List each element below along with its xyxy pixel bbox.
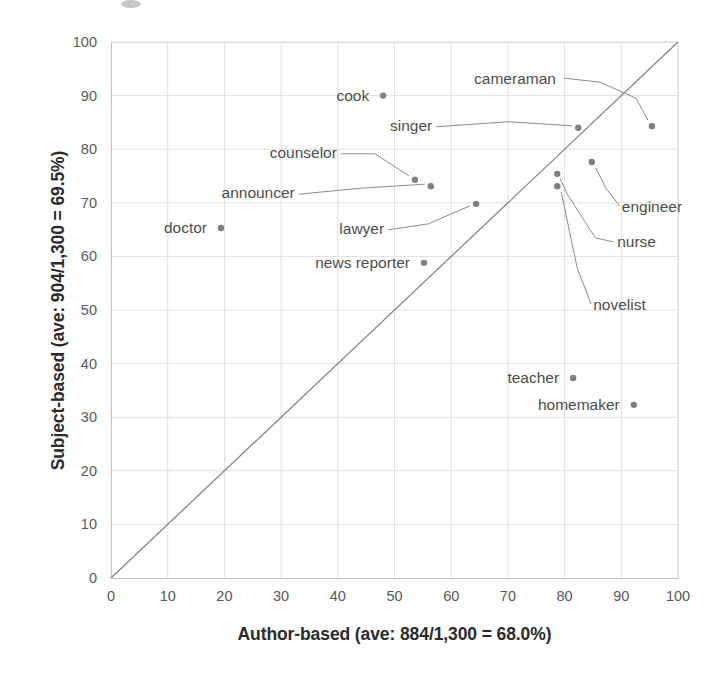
data-point: [380, 92, 386, 98]
data-point: [575, 125, 581, 131]
data-point-label: engineer: [622, 198, 682, 215]
data-point-label: lawyer: [339, 220, 384, 237]
x-axis-title: Author-based (ave: 884/1,300 = 68.0%): [111, 624, 678, 645]
data-point: [649, 123, 655, 129]
leader-line: [388, 206, 470, 230]
scan-artifact-speck: [121, 0, 141, 8]
data-point: [631, 402, 637, 408]
svg-text:100: 100: [73, 34, 97, 50]
data-point: [473, 201, 479, 207]
leader-line: [596, 168, 620, 206]
svg-text:20: 20: [81, 463, 97, 479]
data-point: [554, 171, 560, 177]
data-point-label: news reporter: [315, 254, 410, 271]
svg-text:100: 100: [666, 588, 690, 604]
svg-text:10: 10: [160, 588, 176, 604]
data-point-label: announcer: [222, 184, 295, 201]
data-point: [589, 159, 595, 165]
svg-text:0: 0: [89, 570, 97, 586]
data-point-label: cameraman: [474, 70, 556, 87]
data-point: [570, 375, 576, 381]
svg-text:60: 60: [443, 588, 459, 604]
svg-text:30: 30: [81, 409, 97, 425]
data-point: [412, 177, 418, 183]
svg-text:90: 90: [81, 88, 97, 104]
svg-text:70: 70: [81, 195, 97, 211]
plot-canvas: 0102030405060708090100 01020304050607080…: [0, 0, 726, 674]
svg-text:50: 50: [81, 302, 97, 318]
data-point-label: novelist: [593, 296, 646, 313]
svg-text:10: 10: [81, 516, 97, 532]
svg-text:80: 80: [557, 588, 573, 604]
data-point: [554, 183, 560, 189]
x-tick-labels: 0102030405060708090100: [107, 588, 690, 604]
data-point-label: doctor: [164, 219, 207, 236]
svg-text:60: 60: [81, 248, 97, 264]
data-point: [421, 260, 427, 266]
data-point-label: cook: [336, 87, 369, 104]
svg-text:80: 80: [81, 141, 97, 157]
y-axis-title: Subject-based (ave: 904/1,300 = 69.5%): [48, 101, 69, 521]
svg-text:40: 40: [330, 588, 346, 604]
leader-line: [341, 154, 409, 176]
svg-text:20: 20: [216, 588, 232, 604]
scatter-chart: 0102030405060708090100 01020304050607080…: [0, 0, 726, 674]
data-point-label: homemaker: [538, 396, 620, 413]
data-point: [428, 183, 434, 189]
leader-line: [564, 78, 648, 120]
data-point-label: counselor: [270, 144, 337, 161]
y-tick-labels: 0102030405060708090100: [73, 34, 97, 586]
svg-text:0: 0: [107, 588, 115, 604]
leader-line: [299, 184, 425, 194]
svg-text:70: 70: [500, 588, 516, 604]
data-point-markers: [218, 92, 655, 408]
leader-line: [436, 122, 572, 127]
data-point-label: teacher: [507, 369, 559, 386]
leader-line: [561, 192, 591, 304]
svg-text:30: 30: [273, 588, 289, 604]
data-point-label: nurse: [617, 233, 656, 250]
leader-line: [560, 179, 613, 242]
data-point-label: singer: [390, 117, 432, 134]
svg-text:90: 90: [613, 588, 629, 604]
svg-text:50: 50: [386, 588, 402, 604]
data-point: [218, 225, 224, 231]
svg-text:40: 40: [81, 356, 97, 372]
data-point-labels: cookdoctorcounselorannouncerlawyernews r…: [164, 70, 682, 413]
